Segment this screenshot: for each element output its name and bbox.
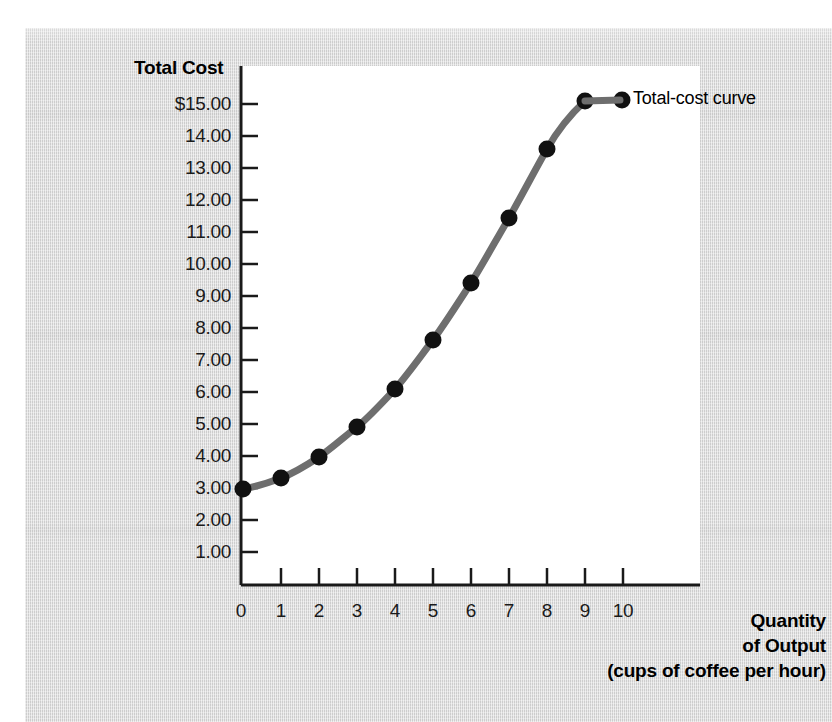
y-tick-text: 1.00 [126, 541, 231, 563]
y-tick-text: 14.00 [126, 125, 231, 147]
x-axis-ticks [281, 568, 623, 585]
curve-end-segment [585, 100, 620, 101]
y-tick-label-10: 10.00 [126, 253, 231, 275]
y-tick-label-6: 6.00 [126, 381, 231, 403]
y-tick-label-7: 7.00 [126, 349, 231, 371]
x-tick-label-1: 1 [261, 600, 301, 622]
y-tick-label-14: 14.00 [126, 125, 231, 147]
y-tick-label-3: 3.00 [126, 477, 231, 499]
y-tick-text: 13.00 [126, 157, 231, 179]
y-tick-text: 8.00 [126, 317, 231, 339]
data-point-markers [235, 92, 631, 498]
x-axis-title-line-3: (cups of coffee per hour) [560, 658, 826, 683]
x-tick-label-7: 7 [489, 600, 529, 622]
x-tick-label-4: 4 [375, 600, 415, 622]
y-tick-label-8: 8.00 [126, 317, 231, 339]
x-tick-label-0: 0 [221, 600, 261, 622]
y-tick-text: 3.00 [126, 477, 231, 499]
y-tick-text: 10.00 [126, 253, 231, 275]
y-tick-label-2: 2.00 [126, 509, 231, 531]
x-axis-title: Quantity of Output (cups of coffee per h… [560, 608, 826, 683]
x-tick-label-5: 5 [413, 600, 453, 622]
x-tick-label-2: 2 [299, 600, 339, 622]
y-tick-label-11: 11.00 [126, 221, 231, 243]
y-tick-label-15: $15.00 [126, 93, 231, 115]
total-cost-curve-line [243, 101, 585, 489]
y-tick-label-5: 5.00 [126, 413, 231, 435]
y-tick-label-12: 12.00 [126, 189, 231, 211]
x-axis-title-line-2: of Output [560, 633, 826, 658]
y-tick-text: 7.00 [126, 349, 231, 371]
y-tick-text: $15.00 [126, 93, 231, 115]
y-tick-text: 6.00 [126, 381, 231, 403]
y-tick-text: 4.00 [126, 445, 231, 467]
axis-lines [241, 66, 700, 585]
curve-annotation-label: Total-cost curve [633, 88, 756, 109]
y-tick-text: 9.00 [126, 285, 231, 307]
y-tick-text: 2.00 [126, 509, 231, 531]
y-tick-label-4: 4.00 [126, 445, 231, 467]
y-tick-label-13: 13.00 [126, 157, 231, 179]
x-tick-label-3: 3 [337, 600, 377, 622]
x-tick-label-6: 6 [451, 600, 491, 622]
y-tick-label-1: 1.00 [126, 541, 231, 563]
y-tick-text: 5.00 [126, 413, 231, 435]
total-cost-curve-figure: Total Cost [0, 0, 832, 722]
y-tick-text: 11.00 [126, 221, 231, 243]
y-tick-label-9: 9.00 [126, 285, 231, 307]
y-tick-text: 12.00 [126, 189, 231, 211]
x-axis-title-line-1: Quantity [560, 608, 826, 633]
